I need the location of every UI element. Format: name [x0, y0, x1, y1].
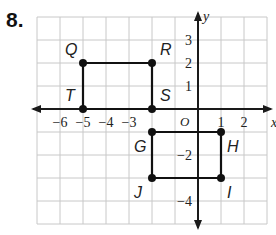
y-tick-label: 3 — [185, 33, 192, 48]
vertex-label-q: Q — [65, 41, 77, 58]
y-tick-label: −2 — [177, 148, 192, 163]
vertex-label-t: T — [65, 87, 76, 104]
point-i — [217, 174, 225, 182]
point-r — [148, 59, 156, 67]
y-axis-down-arrow-icon — [194, 220, 202, 230]
vertex-label-s: S — [160, 87, 171, 104]
x-tick-label: 2 — [241, 115, 248, 130]
y-tick-label: −4 — [177, 194, 192, 209]
x-axis-left-arrow-icon — [31, 105, 41, 113]
point-t — [79, 105, 87, 113]
y-tick-label: 1 — [185, 79, 192, 94]
y-axis-label: y — [201, 9, 210, 24]
point-h — [217, 128, 225, 136]
vertex-label-r: R — [160, 41, 172, 58]
x-tick-label: −4 — [99, 115, 114, 130]
point-q — [79, 59, 87, 67]
origin-label: O — [180, 114, 190, 129]
y-axis-up-arrow-icon — [194, 11, 202, 21]
point-j — [148, 174, 156, 182]
vertex-label-g: G — [134, 138, 146, 155]
coordinate-plane: yxO−6−5−4−312321−2−4QRSTGHIJ — [0, 0, 276, 235]
x-tick-label: −3 — [122, 115, 137, 130]
x-tick-label: 1 — [218, 115, 225, 130]
point-s — [148, 105, 156, 113]
y-tick-label: 2 — [185, 56, 192, 71]
x-tick-label: −5 — [76, 115, 91, 130]
vertex-label-h: H — [227, 138, 239, 155]
x-axis-label: x — [270, 115, 276, 130]
vertex-label-j: J — [133, 184, 143, 201]
x-axis-right-arrow-icon — [263, 105, 273, 113]
point-g — [148, 128, 156, 136]
x-tick-label: −6 — [53, 115, 68, 130]
vertex-label-i: I — [227, 184, 232, 201]
